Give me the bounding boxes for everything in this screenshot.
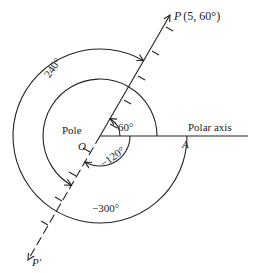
- unit-ticks: [41, 27, 173, 225]
- polar-axis-label: Polar axis: [188, 121, 232, 133]
- point-a-label: A: [181, 138, 189, 150]
- point-p-prime-label: P′: [31, 256, 42, 268]
- point-p-label: P(5, 60°): [173, 9, 220, 23]
- angle-neg300-label: −300°: [92, 202, 119, 214]
- arc-240: [43, 79, 157, 185]
- angle-60-label: 60°: [118, 121, 133, 133]
- polar-diagram: P(5, 60°) Polar axis A Pole O 60° −120° …: [0, 0, 256, 273]
- origin-label: O: [78, 140, 86, 152]
- ray-to-p: [100, 15, 170, 136]
- angle-neg120-label: −120°: [98, 144, 127, 169]
- pole-label: Pole: [62, 124, 82, 136]
